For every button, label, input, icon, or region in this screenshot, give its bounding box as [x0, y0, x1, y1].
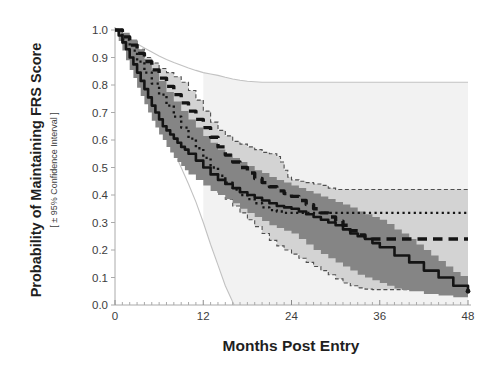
x-tick-label: 0	[112, 310, 118, 322]
y-tick-label: 0.0	[92, 299, 108, 311]
x-tick-label: 48	[462, 310, 475, 322]
x-tick-label: 36	[373, 310, 386, 322]
solid-curve-endpoint	[466, 289, 471, 294]
y-tick-label: 1.0	[92, 24, 108, 36]
y-tick-label: 0.9	[92, 52, 108, 64]
y-tick-label: 0.8	[92, 79, 108, 91]
y-tick-label: 0.6	[92, 134, 108, 146]
y-tick-label: 0.2	[92, 244, 108, 256]
y-tick-label: 0.7	[92, 107, 108, 119]
y-tick-label: 0.3	[92, 217, 108, 229]
y-axis-subtitle: [ ± 95% Confidence Interval ]	[49, 112, 59, 228]
km-survival-chart: 0.00.10.20.30.40.50.60.70.80.91.00122436…	[0, 0, 502, 383]
y-tick-label: 0.1	[92, 272, 108, 284]
y-tick-label: 0.4	[92, 189, 109, 201]
y-tick-label: 0.5	[92, 162, 108, 174]
confidence-bands-layer	[115, 30, 468, 305]
x-tick-label: 12	[197, 310, 210, 322]
y-axis-title: Probability of Maintaining FRS Score	[28, 43, 44, 298]
x-axis-title: Months Post Entry	[223, 337, 360, 354]
km-survival-figure: 0.00.10.20.30.40.50.60.70.80.91.00122436…	[0, 0, 502, 383]
x-tick-label: 24	[285, 310, 298, 322]
